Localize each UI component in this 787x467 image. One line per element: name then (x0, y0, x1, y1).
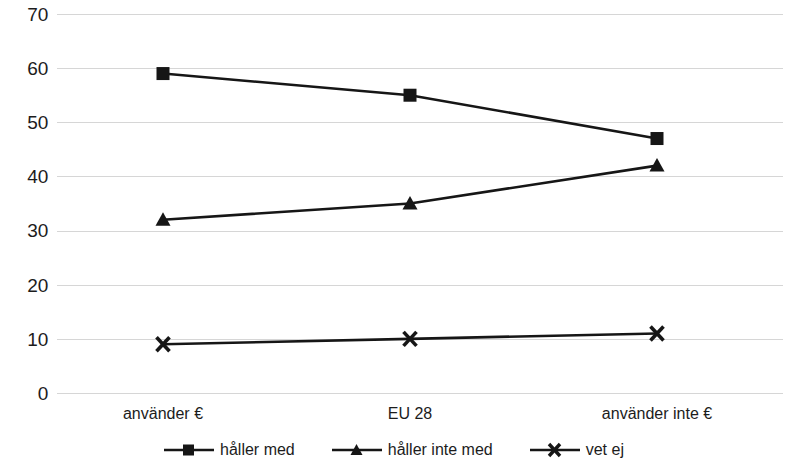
y-axis-tick-40: 40 (4, 167, 48, 186)
series-layer (57, 14, 783, 393)
data-point-square (404, 89, 417, 102)
gridline-0 (57, 393, 783, 394)
x-axis-tick-eu28: EU 28 (388, 404, 432, 424)
legend-label-haller-inte-med: håller inte med (388, 441, 493, 459)
x-axis-tick-anvander-inte-euro: använder inte € (602, 404, 712, 424)
x-marker-icon (529, 442, 581, 458)
y-axis-tick-70: 70 (4, 5, 48, 24)
legend-item-haller-med[interactable]: håller med (163, 441, 295, 459)
data-point-square (651, 132, 664, 145)
triangle-marker-icon (331, 442, 383, 458)
series-haller-inte-med (156, 158, 665, 226)
series-vet-ej (157, 326, 664, 351)
y-axis-tick-30: 30 (4, 221, 48, 240)
legend-item-haller-inte-med[interactable]: håller inte med (331, 441, 493, 459)
y-axis-tick-20: 20 (4, 276, 48, 295)
y-axis-tick-50: 50 (4, 113, 48, 132)
plot-area (57, 14, 783, 393)
legend-label-vet-ej: vet ej (586, 441, 624, 459)
series-line (163, 166, 657, 220)
x-axis: använder € EU 28 använder inte € (57, 404, 783, 428)
legend: håller med håller inte med vet ej (0, 437, 787, 463)
series-haller-med (157, 67, 664, 145)
y-axis-tick-0: 0 (4, 384, 48, 403)
legend-label-haller-med: håller med (220, 441, 295, 459)
y-axis: 70 60 50 40 30 20 10 0 (0, 0, 48, 467)
y-axis-tick-60: 60 (4, 59, 48, 78)
data-point-triangle (650, 158, 665, 172)
legend-item-vet-ej[interactable]: vet ej (529, 441, 624, 459)
series-line (163, 74, 657, 139)
x-axis-tick-anvander-euro: använder € (123, 404, 203, 424)
square-marker-icon (163, 442, 215, 458)
data-point-square (157, 67, 170, 80)
line-chart: 70 60 50 40 30 20 10 0 använder € EU 28 … (0, 0, 787, 467)
y-axis-tick-10: 10 (4, 330, 48, 349)
